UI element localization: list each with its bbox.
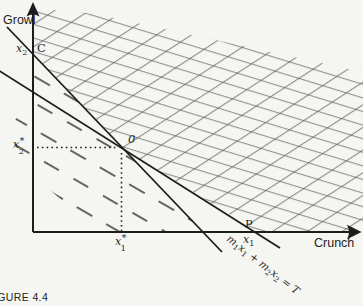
- y-axis-title: Growl: [3, 13, 36, 27]
- scanned-textbook-figure: Growl Crunch x2 C x*2 0 x*1 P x1 m1x1 + …: [0, 0, 363, 306]
- point-c-label: C: [37, 41, 46, 55]
- point-o-label: 0: [128, 132, 135, 146]
- x1-star-label: x*1: [115, 233, 127, 253]
- figure-caption: FIGURE 4.4: [0, 291, 48, 303]
- figure-4-4-plot: Growl Crunch x2 C x*2 0 x*1 P x1 m1x1 + …: [0, 0, 363, 306]
- budget-line-equation: m1x1 + m2x2 = T: [223, 232, 303, 299]
- point-p-label: P: [245, 217, 253, 231]
- x-axis-title: Crunch: [314, 236, 354, 250]
- x2-tick-label: x2: [16, 42, 27, 57]
